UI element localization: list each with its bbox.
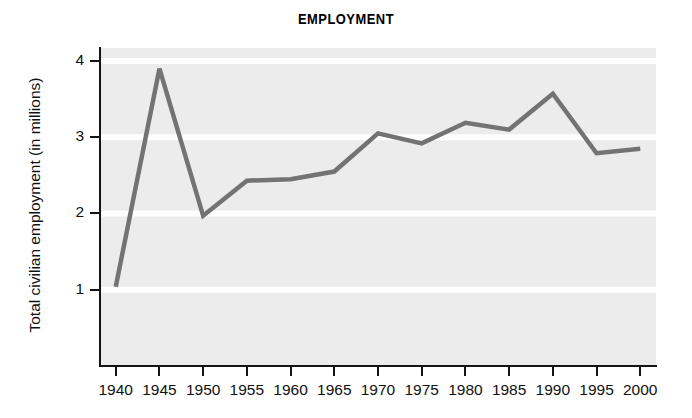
- gridline: [100, 58, 656, 64]
- chart-title: EMPLOYMENT: [48, 10, 643, 27]
- y-tick-label: 3: [50, 127, 84, 145]
- y-tick-mark: [90, 289, 100, 291]
- x-tick-mark: [290, 367, 292, 376]
- plot-svg: [100, 48, 656, 366]
- y-axis-label: Total civilian employment (in millions): [26, 40, 44, 370]
- y-tick-mark: [90, 212, 100, 214]
- x-tick-mark: [508, 367, 510, 376]
- x-tick-mark: [115, 367, 117, 376]
- gridlines: [100, 58, 656, 293]
- x-tick-mark: [333, 367, 335, 376]
- x-tick-mark: [552, 367, 554, 376]
- gridline: [100, 210, 656, 216]
- y-tick-label-wrap: 2: [46, 203, 84, 221]
- x-tick-mark: [158, 367, 160, 376]
- x-tick-mark: [639, 367, 641, 376]
- y-tick-label-wrap: 1: [46, 280, 84, 298]
- x-tick-mark: [246, 367, 248, 376]
- y-tick-label: 1: [50, 280, 84, 298]
- y-tick-label: 2: [50, 203, 84, 221]
- x-tick-mark: [596, 367, 598, 376]
- y-tick-label-wrap: 4: [46, 51, 84, 69]
- y-tick-mark: [90, 136, 100, 138]
- plot-wrapper: [100, 48, 656, 366]
- x-tick-mark: [464, 367, 466, 376]
- y-axis-line: [99, 47, 101, 367]
- x-tick-mark: [421, 367, 423, 376]
- chart-figure: EMPLOYMENT Total civilian employment (in…: [0, 0, 692, 418]
- y-tick-label: 4: [50, 51, 84, 69]
- x-tick-mark: [202, 367, 204, 376]
- y-tick-mark: [90, 60, 100, 62]
- y-tick-label-wrap: 3: [46, 127, 84, 145]
- gridline: [100, 287, 656, 293]
- x-tick-label: 2000: [610, 381, 670, 399]
- x-tick-mark: [377, 367, 379, 376]
- data-series-line: [116, 69, 641, 287]
